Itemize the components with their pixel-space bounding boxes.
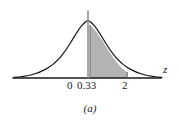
tick-label-0-33: 0.33 <box>77 80 96 91</box>
figure-container: 0 0.33 2 z (a) <box>0 0 180 128</box>
tick-label-2: 2 <box>122 80 128 91</box>
tick-label-0: 0 <box>67 80 73 91</box>
x-axis-name-label: z <box>163 64 167 75</box>
shaded-area-region <box>90 25 127 78</box>
figure-caption: (a) <box>0 103 180 114</box>
